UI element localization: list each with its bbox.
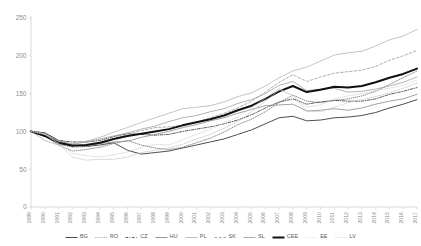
legend-swatch-lv-icon [335, 234, 348, 241]
x-tick-label: 2009 [302, 212, 308, 224]
legend-swatch-bg-icon [65, 234, 78, 241]
x-tick-label: 1989 [26, 212, 32, 224]
x-tick-label: 1999 [164, 212, 170, 224]
legend-swatch-sk-icon [214, 234, 227, 241]
x-tick-label: 2003 [219, 212, 225, 224]
y-tick-label: 100 [16, 128, 27, 135]
x-tick-label: 1993 [81, 212, 87, 224]
x-tick-label: 2011 [329, 212, 335, 223]
x-tick-label: 1996 [123, 212, 129, 224]
x-tick-label: 2008 [288, 212, 294, 224]
legend-item-cee[interactable]: CEE [272, 234, 298, 241]
legend-item-ro[interactable]: RO [95, 234, 118, 241]
y-tick-label: 150 [16, 90, 27, 97]
x-tick-label: 2012 [343, 212, 349, 224]
legend-item-sk[interactable]: SK [214, 234, 236, 241]
y-tick-label: 200 [16, 52, 27, 59]
x-tick-label: 1994 [95, 212, 101, 224]
legend-item-bg[interactable]: BG [65, 234, 88, 241]
x-tick-label: 2002 [205, 212, 211, 224]
x-tick-label: 2004 [233, 212, 239, 224]
y-tick-label: 250 [16, 14, 27, 21]
legend-label: EE [320, 234, 327, 239]
legend-swatch-cee-icon [272, 234, 285, 241]
legend-swatch-ee-icon [305, 234, 318, 241]
legend-swatch-sl-icon [243, 234, 256, 241]
x-tick-label: 2001 [191, 212, 197, 224]
series-line-sk [31, 51, 417, 148]
legend-swatch-pl-icon [185, 234, 198, 241]
x-tick-label: 1997 [136, 212, 142, 224]
legend-label: HU [170, 234, 178, 239]
x-tick-label: 2016 [398, 212, 404, 224]
x-tick-label: 1995 [109, 212, 115, 224]
line-chart: 0501001502002501989199019911992199319941… [0, 0, 421, 246]
legend-item-hu[interactable]: HU [155, 234, 178, 241]
plot-area: 0501001502002501989199019911992199319941… [0, 0, 421, 228]
legend-label: BG [80, 234, 88, 239]
legend-swatch-hu-icon [155, 234, 168, 241]
legend-label: SL [258, 234, 265, 239]
legend-item-lv[interactable]: LV [335, 234, 356, 241]
y-tick-label: 0 [23, 203, 27, 210]
series-line-cee [31, 69, 417, 146]
legend-label: RO [110, 234, 118, 239]
x-tick-label: 2007 [274, 212, 280, 224]
x-tick-label: 2010 [316, 212, 322, 224]
x-tick-label: 2015 [384, 212, 390, 224]
legend-swatch-cz-icon [125, 234, 138, 241]
legend-item-cz[interactable]: CZ [125, 234, 147, 241]
series-line-bg [31, 100, 417, 154]
legend-item-sl[interactable]: SL [243, 234, 265, 241]
x-tick-label: 2013 [357, 212, 363, 224]
x-tick-label: 2017 [412, 212, 418, 224]
legend-label: SK [229, 234, 236, 239]
legend-label: CEE [287, 234, 298, 239]
series-line-lv [31, 83, 417, 160]
x-tick-label: 2014 [371, 212, 377, 224]
legend-item-ee[interactable]: EE [305, 234, 327, 241]
legend-item-pl[interactable]: PL [185, 234, 207, 241]
legend-label: LV [350, 234, 356, 239]
x-tick-label: 2006 [260, 212, 266, 224]
x-tick-label: 2000 [178, 212, 184, 224]
chart-legend: BGROCZHUPLSKSLCEEEELV [0, 228, 421, 246]
x-tick-label: 1990 [40, 212, 46, 224]
y-tick-label: 50 [19, 166, 27, 173]
x-tick-label: 1998 [150, 212, 156, 224]
x-tick-label: 1992 [67, 212, 73, 224]
legend-label: CZ [140, 234, 147, 239]
legend-swatch-ro-icon [95, 234, 108, 241]
legend-label: PL [200, 234, 207, 239]
chart-svg: 0501001502002501989199019911992199319941… [0, 0, 421, 228]
x-tick-label: 2005 [247, 212, 253, 224]
x-tick-label: 1991 [54, 212, 60, 224]
